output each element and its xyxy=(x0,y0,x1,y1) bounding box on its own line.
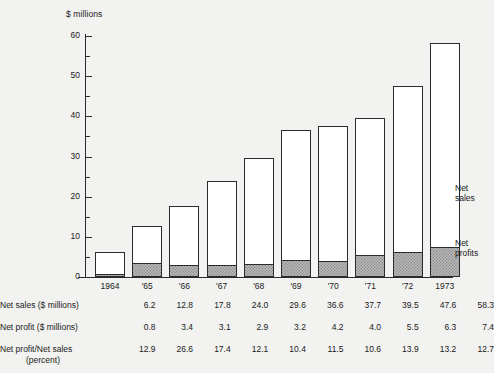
bar-net-profits[interactable] xyxy=(207,265,237,277)
table-cell: 17.8 xyxy=(193,300,231,322)
table-row-label: Net profit/Net sales(percent) xyxy=(0,344,118,366)
table-cell: 7.4 xyxy=(456,322,494,344)
table-row: Net sales ($ millions)6.212.817.824.029.… xyxy=(0,300,494,322)
table-row: Net profit ($ millions)0.83.43.12.93.24.… xyxy=(0,322,494,344)
table-cell: 36.6 xyxy=(306,300,344,322)
callout-net-profits: Net profits xyxy=(455,238,478,258)
table-cell: 58.3 xyxy=(456,300,494,322)
x-tick-label-70: '70 xyxy=(313,281,353,291)
bar-net-profits[interactable] xyxy=(318,261,348,277)
table-cell: 26.6 xyxy=(156,344,194,366)
table-cell: 47.6 xyxy=(419,300,457,322)
table-row-label: Net sales ($ millions) xyxy=(0,300,118,322)
data-table: Net sales ($ millions)6.212.817.824.029.… xyxy=(0,300,494,373)
table-cell: 10.4 xyxy=(268,344,306,366)
x-tick-label-67: '67 xyxy=(202,281,242,291)
x-tick-label-66: '66 xyxy=(164,281,204,291)
table-cell: 12.9 xyxy=(118,344,156,366)
table-row-label: Net profit ($ millions) xyxy=(0,322,118,344)
x-tick-label-69: '69 xyxy=(276,281,316,291)
x-tick-label-1973: 1973 xyxy=(425,281,465,291)
table-cell: 12.1 xyxy=(231,344,269,366)
x-tick-label-65: '65 xyxy=(127,281,167,291)
table-cell: 4.2 xyxy=(306,322,344,344)
table-row: Net profit/Net sales(percent)12.926.617.… xyxy=(0,344,494,366)
bar-net-profits[interactable] xyxy=(169,265,199,277)
bar-net-profits[interactable] xyxy=(393,252,423,277)
chart-page: $ millions 0102030405060 1964'65'66'67'6… xyxy=(0,0,494,373)
x-tick-label-72: '72 xyxy=(388,281,428,291)
x-tick-label-68: '68 xyxy=(239,281,279,291)
bar-net-sales[interactable] xyxy=(393,86,423,277)
bar-net-profits[interactable] xyxy=(244,264,274,277)
table-cell: 11.5 xyxy=(306,344,344,366)
callout-net-profits-line1: Net xyxy=(455,238,468,248)
table-cell: 3.4 xyxy=(156,322,194,344)
table-cell: 0.8 xyxy=(118,322,156,344)
bar-net-sales[interactable] xyxy=(318,126,348,277)
table-cell: 6.3 xyxy=(419,322,457,344)
x-tick-label-71: '71 xyxy=(350,281,390,291)
bar-net-sales[interactable] xyxy=(355,118,385,277)
callout-net-sales-line1: Net xyxy=(455,183,468,193)
table-cell: 3.2 xyxy=(268,322,306,344)
callout-net-sales-line2: sales xyxy=(455,193,475,203)
table-cell: 10.6 xyxy=(343,344,381,366)
table-cell: 12.7 xyxy=(456,344,494,366)
bar-net-sales[interactable] xyxy=(244,158,274,277)
bar-net-profits[interactable] xyxy=(281,260,311,277)
callout-net-sales: Net sales xyxy=(455,183,475,203)
table-cell: 5.5 xyxy=(381,322,419,344)
table-cell: 12.8 xyxy=(156,300,194,322)
table-cell: 39.5 xyxy=(381,300,419,322)
bar-net-sales[interactable] xyxy=(281,130,311,277)
bar-net-sales[interactable] xyxy=(207,181,237,277)
bar-net-profits[interactable] xyxy=(132,263,162,277)
table-cell: 4.0 xyxy=(343,322,381,344)
table-cell: 24.0 xyxy=(231,300,269,322)
bars-layer xyxy=(0,0,494,300)
bar-net-profits[interactable] xyxy=(95,274,125,277)
table-cell: 37.7 xyxy=(343,300,381,322)
table-cell: 29.6 xyxy=(268,300,306,322)
table-cell: 2.9 xyxy=(231,322,269,344)
data-table-grid: Net sales ($ millions)6.212.817.824.029.… xyxy=(0,300,494,366)
bar-net-profits[interactable] xyxy=(355,255,385,277)
table-cell: 13.2 xyxy=(419,344,457,366)
table-cell: 17.4 xyxy=(193,344,231,366)
table-cell: 13.9 xyxy=(381,344,419,366)
stacked-bar-chart: $ millions 0102030405060 1964'65'66'67'6… xyxy=(0,0,494,300)
x-tick-label-1964: 1964 xyxy=(90,281,130,291)
table-cell: 6.2 xyxy=(118,300,156,322)
table-cell: 3.1 xyxy=(193,322,231,344)
table-row-label-line2: (percent) xyxy=(0,355,118,366)
callout-net-profits-line2: profits xyxy=(455,248,478,258)
